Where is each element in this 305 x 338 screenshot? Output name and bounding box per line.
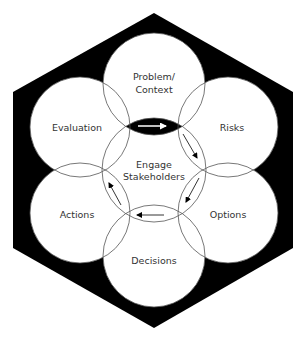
label-evaluation: Evaluation xyxy=(52,122,102,133)
label-center-line1: Engage xyxy=(136,159,172,170)
label-risks: Risks xyxy=(220,122,245,133)
label-problem-line1: Problem/ xyxy=(133,71,176,82)
cycle-diagram: Problem/ Context Risks Options Decisions… xyxy=(0,0,305,338)
label-actions: Actions xyxy=(60,209,95,220)
label-center-line2: Stakeholders xyxy=(123,171,185,182)
label-options: Options xyxy=(210,209,247,220)
label-problem-line2: Context xyxy=(135,84,172,95)
label-decisions: Decisions xyxy=(131,255,176,266)
